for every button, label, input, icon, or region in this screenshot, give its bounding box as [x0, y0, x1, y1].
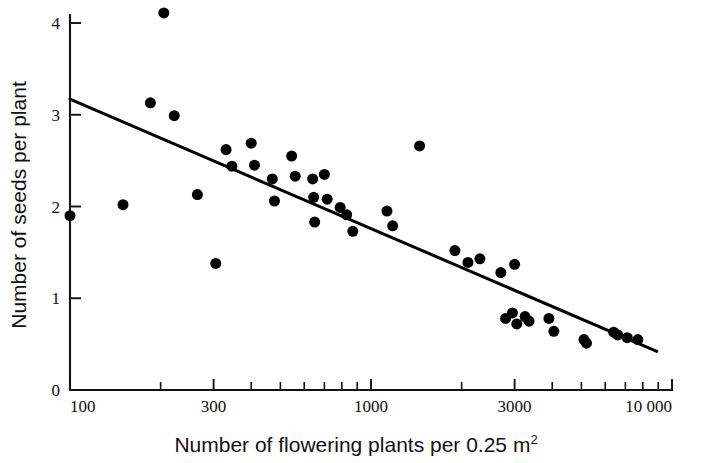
data-point: [249, 160, 260, 171]
scatter-plot-canvas: 1003001000300010 000 01234 Number of flo…: [0, 0, 701, 463]
chart-figure: 1003001000300010 000 01234 Number of flo…: [0, 0, 701, 463]
x-axis-title: Number of flowering plants per 0.25 m2: [174, 432, 537, 456]
y-axis-tick-labels: 01234: [52, 14, 61, 400]
x-tick-label-3000: 3000: [498, 397, 532, 416]
data-point: [309, 217, 320, 228]
regression-line: [70, 99, 657, 351]
data-point: [462, 257, 473, 268]
x-tick-label-10000: 10 000: [625, 397, 672, 416]
data-point: [246, 138, 257, 149]
y-tick-label-0: 0: [52, 381, 61, 400]
x-tick-label-1000: 1000: [354, 397, 388, 416]
y-tick-label-4: 4: [52, 14, 61, 33]
data-point: [543, 313, 554, 324]
axis-frame: [70, 15, 672, 390]
y-tick-label-2: 2: [52, 198, 61, 217]
data-point: [347, 226, 358, 237]
data-point: [65, 210, 76, 221]
data-point: [210, 258, 221, 269]
x-axis-title-superscript: 2: [530, 432, 537, 447]
data-point: [524, 316, 535, 327]
y-axis-title: Number of seeds per plant: [7, 81, 30, 329]
data-point: [449, 245, 460, 256]
data-point: [269, 195, 280, 206]
data-point: [286, 151, 297, 162]
x-tick-label-100: 100: [70, 397, 96, 416]
data-point: [169, 110, 180, 121]
data-point: [221, 144, 232, 155]
data-point: [509, 259, 520, 270]
y-axis-major-ticks: [70, 23, 81, 298]
data-point: [474, 253, 485, 264]
data-point: [511, 318, 522, 329]
x-axis-title-text: Number of flowering plants per 0.25 m: [174, 433, 530, 456]
data-point: [322, 194, 333, 205]
data-point: [267, 173, 278, 184]
data-point: [495, 267, 506, 278]
data-point: [307, 173, 318, 184]
data-point: [581, 338, 592, 349]
data-point: [414, 140, 425, 151]
data-point: [548, 326, 559, 337]
axes: [70, 15, 672, 390]
data-point: [118, 199, 129, 210]
x-axis-tick-labels: 1003001000300010 000: [70, 397, 672, 416]
data-points-layer: [65, 7, 644, 348]
data-point: [387, 220, 398, 231]
data-point: [507, 307, 518, 318]
x-axis-minor-ticks: [161, 382, 659, 390]
x-tick-label-300: 300: [201, 397, 227, 416]
data-point: [192, 189, 203, 200]
y-tick-label-1: 1: [52, 289, 61, 308]
y-tick-label-3: 3: [52, 106, 61, 125]
data-point: [158, 7, 169, 18]
data-point: [381, 206, 392, 217]
data-point: [290, 171, 301, 182]
data-point: [319, 169, 330, 180]
data-point: [145, 97, 156, 108]
